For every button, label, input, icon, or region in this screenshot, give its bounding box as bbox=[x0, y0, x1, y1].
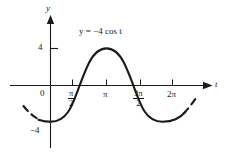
x-tick-label-pi: π bbox=[103, 90, 108, 99]
fraction-denominator: 2 bbox=[133, 99, 144, 108]
fraction-denominator: 2 bbox=[68, 99, 74, 108]
equation-annotation: y = −4 cos t bbox=[79, 27, 122, 36]
x-tick-label-3pi-over-2: 3π 2 bbox=[133, 89, 144, 107]
y-tick-label-4: 4 bbox=[38, 43, 43, 52]
right-arrow-icon bbox=[203, 82, 213, 89]
x-tick-label-pi-over-2: π 2 bbox=[68, 89, 74, 107]
origin-label: 0 bbox=[40, 89, 45, 98]
x-axis-label: t bbox=[215, 80, 218, 89]
trig-graph-figure: y t y = −4 cos t 4 −4 0 π 2 π 3π 2 2π bbox=[0, 0, 228, 154]
y-tick-label-minus-4: −4 bbox=[30, 126, 40, 135]
up-arrow-icon bbox=[47, 15, 54, 24]
x-tick-label-2pi: 2π bbox=[167, 90, 176, 99]
y-axis-label: y bbox=[46, 4, 50, 13]
curve-dashed-left bbox=[24, 106, 41, 120]
curve-dashed-right bbox=[184, 98, 196, 113]
